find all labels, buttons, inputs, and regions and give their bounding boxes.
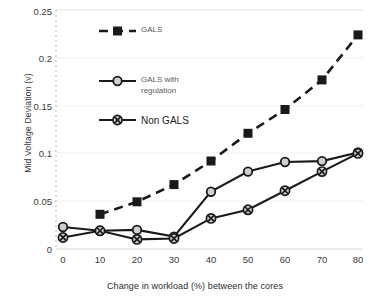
data-point-marker — [318, 75, 327, 84]
data-point-marker — [354, 30, 363, 39]
data-point-marker — [244, 129, 253, 138]
legend-marker-gals — [99, 27, 136, 36]
data-point-marker — [170, 180, 179, 189]
data-point-marker — [207, 157, 216, 166]
data-point-marker — [96, 210, 105, 219]
data-point-marker — [281, 105, 290, 114]
data-point-marker — [133, 197, 142, 206]
chart-container: Mid Voltage Deviation (v) 0 0.05 0.1 0.1… — [0, 0, 369, 302]
legend-marker-gals-with-regulation — [99, 77, 136, 86]
series-gals-polyline — [100, 35, 358, 214]
chart-plot-area — [0, 0, 369, 302]
legend — [99, 27, 136, 125]
legend-marker-non-gals — [99, 115, 136, 124]
series-gals — [96, 0, 363, 219]
